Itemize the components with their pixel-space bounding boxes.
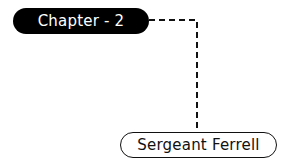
node-chapter-2[interactable]: Chapter - 2	[13, 8, 149, 34]
node-label: Sergeant Ferrell	[137, 136, 259, 154]
diagram-canvas: Chapter - 2 Sergeant Ferrell	[0, 0, 294, 168]
node-label: Chapter - 2	[38, 12, 125, 30]
node-sergeant-ferrell[interactable]: Sergeant Ferrell	[120, 132, 277, 158]
